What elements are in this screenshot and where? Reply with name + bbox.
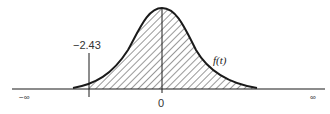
function-label: f(t) (213, 54, 227, 67)
critical-value-label: −2.43 (73, 39, 101, 51)
zero-label: 0 (158, 97, 164, 109)
pos-infinity-label: ∞ (310, 93, 316, 102)
density-diagram: −2.43 0 f(t) −∞ ∞ (0, 0, 330, 114)
neg-infinity-label: −∞ (19, 93, 30, 102)
